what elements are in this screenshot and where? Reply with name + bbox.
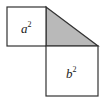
right-triangle — [46, 7, 98, 46]
pythagorean-diagram: a2 b2 — [0, 0, 106, 99]
